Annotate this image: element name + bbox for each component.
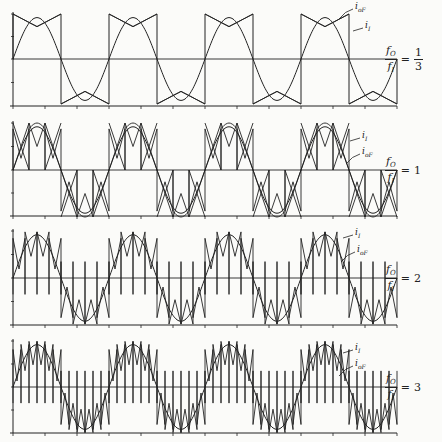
- iI-leader-line: [350, 138, 360, 141]
- iI-cusp-ratio-1-3: [13, 14, 61, 27]
- iI-leader-line: [353, 28, 363, 31]
- ioF-curve-label: ioF: [355, 358, 366, 370]
- fo-over-fi: fOfI: [385, 156, 397, 185]
- label-subscript: oF: [358, 6, 366, 13]
- iI-leader-line: [343, 350, 353, 353]
- label-subscript: oF: [365, 151, 373, 158]
- iI-curve-label: iI: [362, 130, 367, 142]
- label-subscript: I: [358, 232, 360, 239]
- iI-cusp-ratio-1-3: [349, 91, 397, 104]
- fo-over-fi: fOfI: [385, 45, 397, 74]
- iI-curve-label: iI: [355, 227, 360, 239]
- ioF-curve-label: ioF: [362, 146, 373, 158]
- equals-sign: =: [401, 164, 410, 177]
- frequency-ratio-label: fOfI=3: [385, 373, 421, 402]
- ioF-curve-label: ioF: [355, 1, 366, 13]
- iI-curve-label: iI: [355, 342, 360, 354]
- waveform-figure: [0, 0, 442, 442]
- equals-sign: =: [401, 381, 410, 394]
- iI-arch-ratio-1: [317, 123, 333, 129]
- iI-cusp-ratio-1-3: [109, 14, 157, 27]
- fo-over-fi: fOfI: [385, 373, 397, 402]
- iI-cusp-ratio-1-3: [61, 91, 109, 104]
- frequency-ratio-label: fOfI=2: [385, 264, 421, 293]
- ioF-leader-line: [339, 9, 353, 19]
- ratio-value: 2: [414, 272, 421, 285]
- fo-over-fi: fOfI: [385, 264, 397, 293]
- equals-sign: =: [401, 272, 410, 285]
- iI-cusp-ratio-1-3: [253, 91, 301, 104]
- iI-arch-ratio-1: [125, 123, 141, 129]
- frequency-ratio-label: fOfI=13: [385, 45, 423, 74]
- ratio-value: 3: [414, 381, 421, 394]
- ioF-leader-line: [346, 154, 360, 164]
- label-subscript: oF: [360, 249, 368, 256]
- label-subscript: I: [365, 135, 367, 142]
- iI-cusp-ratio-1-3: [157, 91, 205, 104]
- iI-leader-line: [343, 235, 353, 238]
- ratio-value: 1: [414, 164, 421, 177]
- iI-curve-label: iI: [365, 20, 370, 32]
- label-subscript: I: [358, 347, 360, 354]
- iI-cusp-ratio-1-3: [205, 14, 253, 27]
- ioF-curve-label: ioF: [357, 244, 368, 256]
- iI-arch-ratio-1: [221, 123, 237, 129]
- ratio-value: 13: [414, 47, 423, 72]
- label-subscript: I: [368, 25, 370, 32]
- equals-sign: =: [401, 53, 410, 66]
- iI-arch-ratio-1: [29, 123, 45, 129]
- label-subscript: oF: [358, 363, 366, 370]
- frequency-ratio-label: fOfI=1: [385, 156, 421, 185]
